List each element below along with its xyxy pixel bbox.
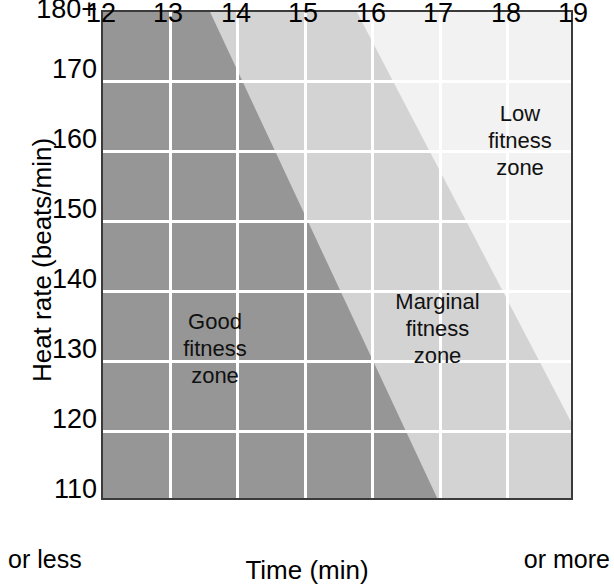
gridline-x-18 [506,12,509,498]
gridline-x-17 [439,12,442,498]
x-axis-title: Time (min) [0,556,614,584]
gridline-y-120 [103,430,571,433]
gridline-x-15 [304,12,307,498]
plot-area [101,10,573,500]
fitness-zone-chart: Good fitness zone Marginal fitness zone … [0,0,614,588]
annotation-good-line-2: fitness [135,335,295,362]
annotation-low-line-2: fitness [450,127,590,154]
gridline-y-150 [103,220,571,223]
x-tick-17: 17 [403,0,473,27]
annotation-marginal-fitness-zone: Marginal fitness zone [370,288,505,369]
y-tick-110: 110 [5,476,97,503]
x-tick-19: 19 [538,0,608,27]
zone-bands [103,12,571,498]
plot-inner [103,12,571,498]
annotation-good-fitness-zone: Good fitness zone [135,308,295,389]
annotation-marginal-line-3: zone [370,342,505,369]
y-axis-title: Heat rate (beats/min) [28,50,56,470]
x-tick-14: 14 [201,0,271,27]
gridline-y-170 [103,80,571,83]
gridline-x-14 [236,12,239,498]
annotation-low-line-1: Low [450,100,590,127]
annotation-low-line-3: zone [450,154,590,181]
gridline-x-13 [169,12,172,498]
annotation-low-fitness-zone: Low fitness zone [450,100,590,181]
annotation-marginal-line-2: fitness [370,315,505,342]
gridline-x-16 [371,12,374,498]
annotation-good-line-3: zone [135,362,295,389]
x-tick-18: 18 [471,0,541,27]
x-tick-15: 15 [268,0,338,27]
x-tick-12: 12 [66,0,136,27]
x-tick-13: 13 [133,0,203,27]
annotation-good-line-1: Good [135,308,295,335]
x-tick-16: 16 [336,0,406,27]
annotation-marginal-line-1: Marginal [370,288,505,315]
